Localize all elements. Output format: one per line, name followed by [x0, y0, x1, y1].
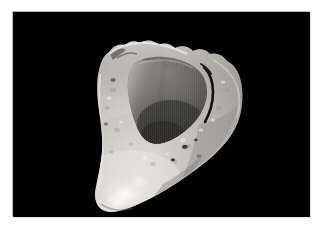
foramen-pit	[171, 158, 176, 162]
foramen-pit	[196, 154, 201, 158]
foramen-pit	[104, 122, 108, 125]
photo-page: Pale bone or tooth specimen with hollow …	[0, 0, 324, 228]
specimen-layer	[13, 12, 310, 217]
foramen-pit	[182, 145, 188, 150]
foramen-pit	[110, 78, 115, 82]
specimen-photograph	[13, 12, 310, 217]
bone-specimen	[13, 12, 310, 217]
foramen-pit	[194, 138, 198, 141]
